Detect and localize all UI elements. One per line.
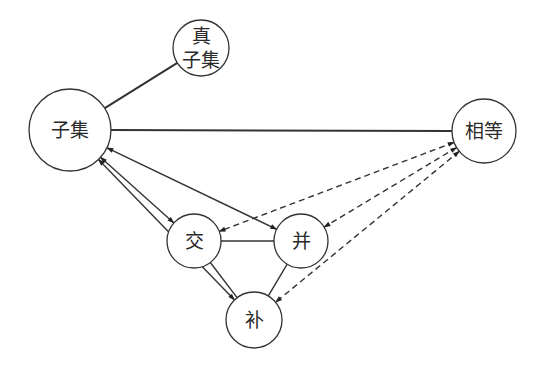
node-intersection: 交 bbox=[167, 214, 221, 268]
node-union: 并 bbox=[274, 214, 328, 268]
edge-equal-to-intersection bbox=[219, 142, 454, 231]
node-label: 相等 bbox=[465, 120, 503, 142]
node-label: 真 bbox=[192, 25, 211, 47]
node-complement: 补 bbox=[226, 292, 282, 348]
nodes-layer: 真子集子集相等交并补 bbox=[29, 20, 516, 348]
node-label: 子集 bbox=[182, 49, 220, 71]
edge-subset-to-proper-subset bbox=[105, 63, 178, 108]
node-proper-subset: 真子集 bbox=[173, 20, 229, 76]
edges-layer bbox=[99, 63, 460, 302]
edge-subset-to-intersection bbox=[101, 157, 174, 223]
edge-union-to-complement bbox=[268, 264, 287, 296]
edge-intersection-to-complement bbox=[210, 263, 237, 298]
node-equal: 相等 bbox=[452, 99, 516, 163]
edge-equal-to-union bbox=[324, 148, 457, 228]
node-label: 并 bbox=[292, 230, 311, 252]
edge-subset-to-equal bbox=[111, 130, 452, 131]
node-label: 交 bbox=[185, 230, 204, 252]
node-label: 补 bbox=[245, 309, 264, 331]
node-label: 子集 bbox=[51, 119, 89, 141]
set-relations-diagram: 真子集子集相等交并补 bbox=[0, 0, 534, 370]
node-subset: 子集 bbox=[29, 89, 111, 171]
